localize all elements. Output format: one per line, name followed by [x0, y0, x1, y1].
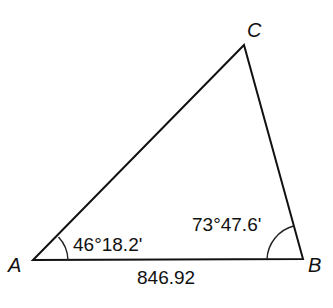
vertex-label-b: B — [308, 254, 321, 276]
vertex-label-a: A — [7, 254, 21, 276]
vertex-label-c: C — [247, 19, 262, 41]
angle-label-b: 73°47.6' — [192, 214, 261, 235]
angle-arc-a — [59, 237, 69, 260]
side-label-ab: 846.92 — [137, 267, 195, 288]
triangle-diagram: A B C 46°18.2' 73°47.6' 846.92 — [0, 0, 333, 308]
triangle-abc — [33, 45, 303, 260]
angle-arc-b — [267, 226, 294, 259]
angle-label-a: 46°18.2' — [73, 234, 142, 255]
